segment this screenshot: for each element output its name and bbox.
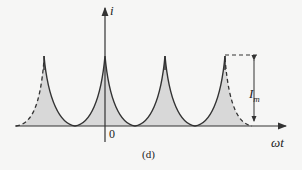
waveform-figure: i 0 ωt Im (d) [0,0,302,170]
amplitude-label: Im [249,86,260,104]
waveform-plot [0,0,302,170]
waveform-curve [44,56,225,126]
origin-label: 0 [109,127,115,142]
x-axis-label: ωt [271,135,284,151]
figure-caption: (d) [142,148,155,160]
waveform-fill [16,56,252,126]
y-axis-label: i [110,3,114,19]
